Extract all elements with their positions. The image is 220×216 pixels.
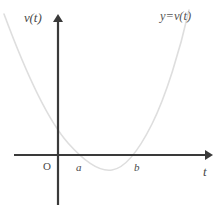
y-axis-arrowhead-icon bbox=[53, 14, 63, 22]
x-intercept-a-label: a bbox=[76, 162, 82, 173]
velocity-time-graph-figure: ᴠ(t) t y=ᴠ(t) O a b bbox=[0, 0, 220, 216]
y-axis-label: ᴠ(t) bbox=[24, 11, 42, 24]
x-intercept-b-label: b bbox=[134, 162, 140, 173]
curve-equation-label: y=ᴠ(t) bbox=[160, 10, 191, 23]
velocity-curve bbox=[4, 10, 189, 170]
t-axis-label: t bbox=[203, 165, 207, 178]
origin-label: O bbox=[43, 161, 51, 172]
t-axis-arrowhead-icon bbox=[205, 150, 213, 160]
graph-canvas bbox=[0, 0, 220, 216]
